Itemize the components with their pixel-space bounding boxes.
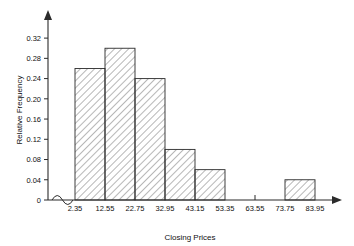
histogram-bar xyxy=(135,79,165,200)
histogram-bar xyxy=(75,68,105,200)
y-tick-label: 0.20 xyxy=(26,95,41,104)
histogram-bar xyxy=(165,149,195,200)
x-axis-title: Closing Prices xyxy=(164,233,215,242)
x-tick-label: 22.75 xyxy=(126,204,145,213)
x-tick-label: 63.55 xyxy=(246,204,265,213)
y-tick-label: 0.24 xyxy=(26,74,41,83)
x-tick-label: 32.95 xyxy=(156,204,175,213)
y-axis-title: Relative Frequency xyxy=(15,76,24,145)
x-tick-label: 12.55 xyxy=(96,204,115,213)
y-tick-label: 0.04 xyxy=(26,176,41,185)
histogram-bar xyxy=(285,180,315,200)
histogram-bar xyxy=(105,48,135,200)
y-axis-arrow-icon xyxy=(44,10,52,20)
y-tick-label: 0.28 xyxy=(26,54,41,63)
bars-group xyxy=(75,48,315,200)
x-tick-label: 83.95 xyxy=(306,204,325,213)
y-axis-ticks: 00.040.080.120.160.200.240.280.32 xyxy=(26,34,48,205)
y-tick-label: 0.16 xyxy=(26,115,41,124)
x-tick-label: 73.75 xyxy=(276,204,295,213)
y-tick-label: 0.32 xyxy=(26,34,41,43)
y-tick-label: 0.12 xyxy=(26,135,41,144)
x-tick-label: 2.35 xyxy=(68,204,83,213)
x-axis-arrow-icon xyxy=(332,196,342,204)
y-tick-label: 0 xyxy=(37,196,41,205)
histogram-bar xyxy=(195,170,225,200)
y-tick-label: 0.08 xyxy=(26,155,41,164)
histogram-chart: 00.040.080.120.160.200.240.280.32 2.3512… xyxy=(0,0,354,246)
x-tick-label: 53.35 xyxy=(216,204,235,213)
x-tick-label: 43.15 xyxy=(186,204,205,213)
chart-canvas: 00.040.080.120.160.200.240.280.32 2.3512… xyxy=(0,0,354,246)
